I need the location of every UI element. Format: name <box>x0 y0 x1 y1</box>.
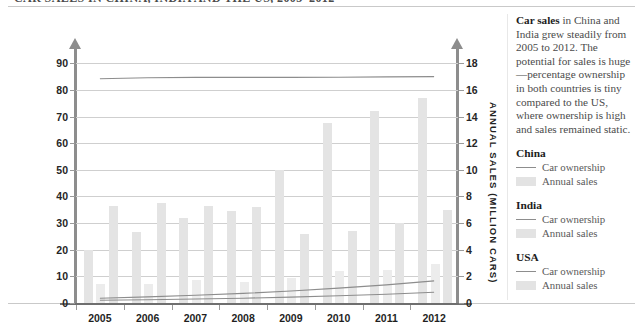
y-axis-right-tickmark <box>459 223 464 224</box>
legend-row-ownership: Car ownership <box>516 265 634 278</box>
legend-line-swatch-icon <box>516 271 536 272</box>
line-usa-car-ownership <box>100 77 434 79</box>
top-rule <box>8 6 635 7</box>
y-axis-right-tick-label: 6 <box>466 217 490 229</box>
y-axis-left-tickmark <box>70 170 75 171</box>
y-axis-left-tick-label: 80 <box>44 84 68 96</box>
legend-group-usa: USACar ownershipAnnual sales <box>516 251 634 292</box>
legend-row-ownership: Car ownership <box>516 213 634 226</box>
y-axis-right-arrow-icon <box>451 38 463 49</box>
x-axis-tick-label-2012: 2012 <box>412 312 456 324</box>
x-axis-tick-label-2006: 2006 <box>126 312 170 324</box>
legend: ChinaCar ownershipAnnual salesIndiaCar o… <box>516 147 634 292</box>
y-axis-right-tick-label: 0 <box>466 297 490 309</box>
x-axis-tick-label-2009: 2009 <box>269 312 313 324</box>
y-axis-right-tick-label: 8 <box>466 190 490 202</box>
y-axis-left-tick-label: 60 <box>44 137 68 149</box>
y-axis-right-tickmark <box>459 196 464 197</box>
y-axis-left-tick-label: 70 <box>44 111 68 123</box>
legend-bar-swatch-icon <box>516 281 536 290</box>
y-axis-left-tickmark <box>70 276 75 277</box>
y-axis-right-tickmark <box>459 143 464 144</box>
y-axis-right-tickmark <box>459 63 464 64</box>
y-axis-left-tick-label: 30 <box>44 217 68 229</box>
y-axis-left-tick-label: 40 <box>44 190 68 202</box>
sidebar-paragraph: Car sales in China and India grew steadi… <box>516 14 634 136</box>
legend-row-sales: Annual sales <box>516 279 634 292</box>
x-axis-tick-label-2011: 2011 <box>364 312 408 324</box>
legend-label-sales: Annual sales <box>542 176 597 187</box>
y-axis-left-tickmark <box>70 303 75 304</box>
legend-row-sales: Annual sales <box>516 175 634 188</box>
legend-label-ownership: Car ownership <box>542 266 605 277</box>
x-axis-tickmark <box>219 305 220 310</box>
x-axis-tick-label-2005: 2005 <box>78 312 122 324</box>
y-axis-left-tickmark <box>70 196 75 197</box>
sidebar: Car sales in China and India grew steadi… <box>516 14 634 300</box>
legend-row-sales: Annual sales <box>516 227 634 240</box>
figure-title: CAR SALES IN CHINA, INDIA AND THE US, 20… <box>14 0 434 3</box>
line-china-car-ownership <box>100 281 434 298</box>
chart-area: CAR OWNERSHIP (%) ANNUAL SALES (MILLION … <box>0 16 505 301</box>
y-axis-right-tick-label: 2 <box>466 270 490 282</box>
legend-country-heading: China <box>516 147 634 159</box>
y-axis-right-tickmark <box>459 276 464 277</box>
legend-label-sales: Annual sales <box>542 280 597 291</box>
y-axis-right-tickmark <box>459 303 464 304</box>
legend-line-swatch-icon <box>516 167 536 168</box>
y-axis-right-tick-label: 10 <box>466 164 490 176</box>
y-axis-right-tick-label: 4 <box>466 244 490 256</box>
y-axis-left-tickmark <box>70 117 75 118</box>
y-axis-left-tick-label: 0 <box>44 297 68 309</box>
legend-line-swatch-icon <box>516 219 536 220</box>
y-axis-left-tick-label: 20 <box>44 244 68 256</box>
legend-bar-swatch-icon <box>516 229 536 238</box>
y-axis-right-tick-label: 14 <box>466 111 490 123</box>
legend-bar-swatch-icon <box>516 177 536 186</box>
y-axis-left-arrow-icon <box>69 38 81 49</box>
y-axis-left-tick-label: 90 <box>44 57 68 69</box>
x-axis-tickmark <box>124 305 125 310</box>
legend-group-india: IndiaCar ownershipAnnual sales <box>516 199 634 240</box>
legend-group-china: ChinaCar ownershipAnnual sales <box>516 147 634 188</box>
y-axis-left-tickmark <box>70 63 75 64</box>
x-axis-tickmark <box>267 305 268 310</box>
sidebar-paragraph-lead: Car sales <box>516 14 560 26</box>
legend-label-sales: Annual sales <box>542 228 597 239</box>
y-axis-left-tickmark <box>70 143 75 144</box>
y-axis-left-tick-label: 50 <box>44 164 68 176</box>
y-axis-left-tickmark <box>70 250 75 251</box>
x-axis-tickmark <box>315 305 316 310</box>
legend-country-heading: India <box>516 199 634 211</box>
x-axis-tickmark <box>172 305 173 310</box>
sidebar-paragraph-rest: in China and India grew steadily from 20… <box>516 14 630 135</box>
y-axis-right-tickmark <box>459 170 464 171</box>
y-axis-left-tickmark <box>70 90 75 91</box>
y-axis-right-tick-label: 16 <box>466 84 490 96</box>
y-axis-right-tickmark <box>459 250 464 251</box>
y-axis-left-tickmark <box>70 223 75 224</box>
y-axis-right-tickmark <box>459 90 464 91</box>
x-axis-tick-label-2010: 2010 <box>317 312 361 324</box>
y-axis-right-tick-label: 12 <box>466 137 490 149</box>
x-axis-tickmark <box>76 305 77 310</box>
ownership-line-layer <box>76 50 458 303</box>
x-axis-tick-label-2007: 2007 <box>173 312 217 324</box>
x-axis-tickmark <box>363 305 364 310</box>
legend-country-heading: USA <box>516 251 634 263</box>
sidebar-divider <box>507 14 508 300</box>
legend-label-ownership: Car ownership <box>542 162 605 173</box>
x-axis-tick-label-2008: 2008 <box>221 312 265 324</box>
legend-label-ownership: Car ownership <box>542 214 605 225</box>
plot-region <box>76 50 458 303</box>
y-axis-right-tick-label: 18 <box>466 57 490 69</box>
y-axis-right-tickmark <box>459 117 464 118</box>
y-axis-left-tick-label: 10 <box>44 270 68 282</box>
x-axis-tickmark <box>410 305 411 310</box>
legend-row-ownership: Car ownership <box>516 161 634 174</box>
